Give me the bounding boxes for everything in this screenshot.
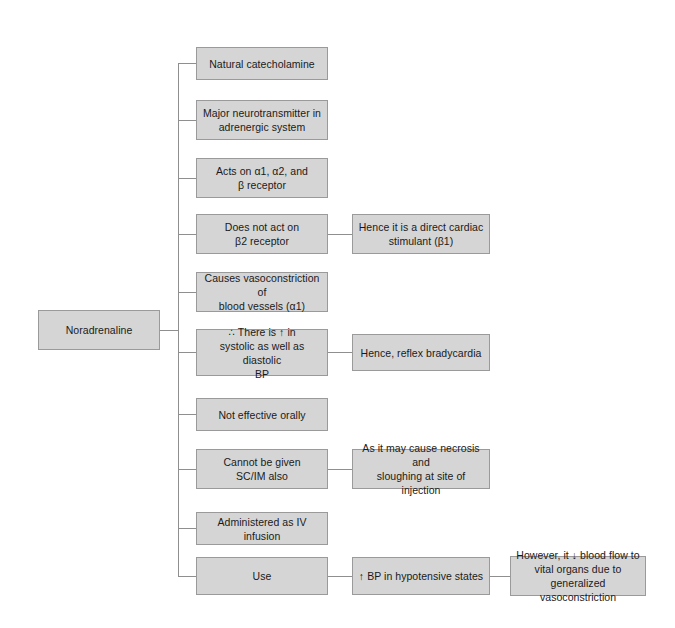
node-branch-4-child-1[interactable]: Hence it is a direct cardiac stimulant (…	[352, 214, 490, 254]
connector-trunk-to-branch-5	[178, 292, 196, 293]
connector-branch-10-to-child	[328, 576, 352, 577]
connector-branch-10-child-to-grandchild	[490, 576, 510, 577]
node-branch-1-label: Natural catecholamine	[201, 57, 323, 71]
connector-trunk-to-branch-1	[178, 63, 196, 64]
root-node-label: Noradrenaline	[43, 323, 155, 337]
connector-trunk-to-branch-4	[178, 234, 196, 235]
node-branch-8-child-1-label: As it may cause necrosis and sloughing a…	[357, 441, 485, 497]
connector-trunk-to-branch-6	[178, 352, 196, 353]
connector-trunk	[178, 63, 179, 576]
node-branch-8[interactable]: Cannot be given SC/IM also	[196, 449, 328, 489]
flowchart-canvas: Noradrenaline Natural catecholamine Majo…	[0, 0, 675, 628]
node-branch-3-label: Acts on α1, α2, and β receptor	[201, 164, 323, 192]
connector-branch-6-to-child	[328, 352, 352, 353]
node-branch-6[interactable]: ∴ There is ↑ in systolic as well as dias…	[196, 329, 328, 376]
node-branch-4-label: Does not act on β2 receptor	[201, 220, 323, 248]
node-branch-10[interactable]: Use	[196, 557, 328, 595]
connector-trunk-to-branch-9	[178, 528, 196, 529]
node-branch-2[interactable]: Major neurotransmitter in adrenergic sys…	[196, 100, 328, 140]
node-branch-6-child-1-label: Hence, reflex bradycardia	[357, 346, 485, 360]
node-branch-9-label: Administered as IV infusion	[201, 515, 323, 543]
node-branch-10-child-1-label: ↑ BP in hypotensive states	[357, 569, 485, 583]
connector-trunk-to-branch-10	[178, 576, 196, 577]
connector-branch-8-to-child	[328, 469, 352, 470]
node-branch-8-child-1[interactable]: As it may cause necrosis and sloughing a…	[352, 449, 490, 489]
node-branch-6-child-1[interactable]: Hence, reflex bradycardia	[352, 334, 490, 371]
node-branch-5[interactable]: Causes vasoconstriction of blood vessels…	[196, 272, 328, 312]
node-branch-7[interactable]: Not effective orally	[196, 398, 328, 431]
connector-trunk-to-branch-2	[178, 120, 196, 121]
node-branch-9[interactable]: Administered as IV infusion	[196, 512, 328, 545]
node-branch-4-child-1-label: Hence it is a direct cardiac stimulant (…	[357, 220, 485, 248]
node-branch-5-label: Causes vasoconstriction of blood vessels…	[201, 271, 323, 313]
connector-root-stub	[160, 330, 178, 331]
node-branch-10-grandchild-1-label: However, it ↓ blood flow to vital organs…	[515, 548, 641, 604]
connector-trunk-to-branch-3	[178, 178, 196, 179]
root-node-noradrenaline[interactable]: Noradrenaline	[38, 310, 160, 350]
node-branch-4[interactable]: Does not act on β2 receptor	[196, 214, 328, 254]
node-branch-7-label: Not effective orally	[201, 408, 323, 422]
connector-branch-4-to-child	[328, 234, 352, 235]
connector-trunk-to-branch-8	[178, 469, 196, 470]
node-branch-6-label: ∴ There is ↑ in systolic as well as dias…	[201, 325, 323, 381]
node-branch-10-label: Use	[201, 569, 323, 583]
node-branch-3[interactable]: Acts on α1, α2, and β receptor	[196, 158, 328, 198]
node-branch-10-grandchild-1[interactable]: However, it ↓ blood flow to vital organs…	[510, 556, 646, 596]
node-branch-10-child-1[interactable]: ↑ BP in hypotensive states	[352, 557, 490, 595]
node-branch-2-label: Major neurotransmitter in adrenergic sys…	[201, 106, 323, 134]
node-branch-8-label: Cannot be given SC/IM also	[201, 455, 323, 483]
node-branch-1[interactable]: Natural catecholamine	[196, 47, 328, 80]
connector-trunk-to-branch-7	[178, 414, 196, 415]
